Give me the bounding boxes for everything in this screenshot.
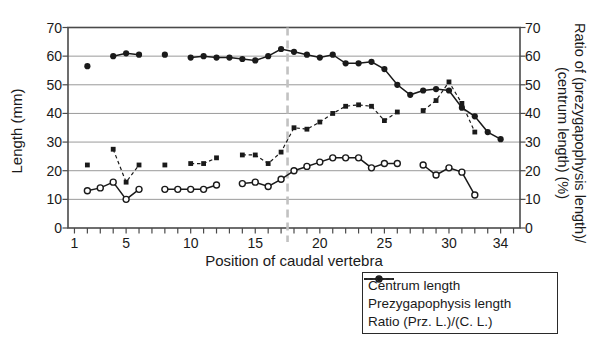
x-tick-label: 34 xyxy=(484,235,518,251)
y-left-tick-label: 70 xyxy=(28,20,62,36)
legend-item-ratio: Ratio (Prz. L.)/(C. L.) xyxy=(368,312,555,330)
y-axis-right-title-line1: Ratio of (prezygapophysis length)/ xyxy=(571,5,588,261)
legend: Centrum length Prezygapophysis length Ra… xyxy=(362,272,558,334)
x-tick-label: 1 xyxy=(57,235,91,251)
chart-figure: Length (mm) 010203040506070 010203040506… xyxy=(0,0,594,353)
x-tick-label: 30 xyxy=(432,235,466,251)
x-tick-label: 10 xyxy=(174,235,208,251)
x-tick-label: 25 xyxy=(367,235,401,251)
y-axis-right-title-line2: (centrum length) (%) xyxy=(554,5,571,261)
y-left-tick-label: 0 xyxy=(28,220,62,236)
x-tick-label: 5 xyxy=(109,235,143,251)
y-axis-left-title: Length (mm) xyxy=(8,75,26,187)
y-left-tick-label: 50 xyxy=(28,77,62,93)
x-tick-label: 15 xyxy=(238,235,272,251)
legend-item-centrum-length: Centrum length xyxy=(368,276,555,294)
legend-label: Ratio (Prz. L.)/(C. L.) xyxy=(368,314,493,329)
y-left-tick-label: 20 xyxy=(28,163,62,179)
legend-item-prezygapophysis-length: Prezygapophysis length xyxy=(368,294,555,312)
y-left-tick-label: 30 xyxy=(28,134,62,150)
x-tick-label: 20 xyxy=(303,235,337,251)
x-axis-title: Position of caudal vertebra xyxy=(68,252,520,269)
y-axis-right-title: Ratio of (prezygapophysis length)/ (cent… xyxy=(554,5,588,261)
y-left-tick-label: 60 xyxy=(28,48,62,64)
y-left-tick-label: 10 xyxy=(28,191,62,207)
filled-dot-dashed-line-icon xyxy=(363,273,395,285)
y-left-tick-label: 40 xyxy=(28,105,62,121)
legend-label: Prezygapophysis length xyxy=(368,296,511,311)
